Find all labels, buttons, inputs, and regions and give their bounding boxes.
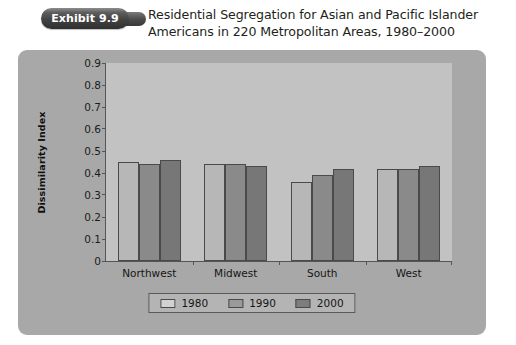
x-axis-category-label: West bbox=[396, 267, 422, 279]
legend-swatch-1980 bbox=[160, 299, 175, 308]
bar-group-south: South bbox=[279, 63, 366, 261]
bar-northwest-1990 bbox=[139, 164, 160, 261]
legend-label-1980: 1980 bbox=[181, 297, 208, 309]
bar-west-1990 bbox=[398, 169, 419, 261]
bar-west-1980 bbox=[377, 169, 398, 261]
y-axis-tick-label: 0 bbox=[94, 255, 101, 267]
legend-swatch-2000 bbox=[296, 299, 311, 308]
y-axis-tick-label: 0.8 bbox=[84, 79, 101, 91]
bar-south-2000 bbox=[333, 169, 354, 261]
y-axis-tick-label: 0.7 bbox=[84, 101, 101, 113]
x-axis-tick bbox=[193, 261, 194, 265]
x-axis-tick bbox=[366, 261, 367, 265]
bar-groups: NorthwestMidwestSouthWest bbox=[106, 63, 452, 261]
bar-midwest-1990 bbox=[225, 164, 246, 261]
exhibit-badge: Exhibit 9.9 bbox=[41, 8, 129, 29]
y-axis-tick-label: 0.9 bbox=[84, 57, 101, 69]
legend-swatch-1990 bbox=[228, 299, 243, 308]
y-axis-tick-label: 0.5 bbox=[84, 145, 101, 157]
chart-legend: 198019902000 bbox=[148, 293, 355, 313]
y-axis-tick-label: 0.6 bbox=[84, 123, 101, 135]
legend-item-2000[interactable]: 2000 bbox=[296, 297, 344, 309]
x-axis-tick bbox=[279, 261, 280, 265]
chart-panel: Dissimilarity Index 0.90.80.70.60.50.40.… bbox=[18, 50, 486, 335]
page-title: Residential Segregation for Asian and Pa… bbox=[148, 6, 498, 40]
page-title-line-2: Americans in 220 Metropolitan Areas, 198… bbox=[148, 23, 498, 40]
bar-midwest-1980 bbox=[204, 164, 225, 261]
legend-item-1980[interactable]: 1980 bbox=[160, 297, 208, 309]
y-axis-tick-label: 0.1 bbox=[84, 233, 101, 245]
x-axis-tick bbox=[451, 261, 452, 265]
x-axis-category-label: Midwest bbox=[214, 267, 257, 279]
y-axis-tick-label: 0.3 bbox=[84, 189, 101, 201]
y-axis-tick-label: 0.4 bbox=[84, 167, 101, 179]
plot-area: 0.90.80.70.60.50.40.30.20.10 NorthwestMi… bbox=[105, 63, 452, 262]
bar-group-midwest: Midwest bbox=[193, 63, 280, 261]
y-axis-title: Dissimilarity Index bbox=[34, 63, 48, 262]
bar-west-2000 bbox=[419, 166, 440, 261]
bar-south-1990 bbox=[312, 175, 333, 261]
legend-item-1990[interactable]: 1990 bbox=[228, 297, 276, 309]
bar-northwest-2000 bbox=[160, 160, 181, 261]
bar-south-1980 bbox=[291, 182, 312, 261]
bar-northwest-1980 bbox=[118, 162, 139, 261]
x-axis-category-label: South bbox=[307, 267, 338, 279]
bar-midwest-2000 bbox=[246, 166, 267, 261]
y-axis-title-label: Dissimilarity Index bbox=[36, 111, 47, 213]
legend-label-2000: 2000 bbox=[317, 297, 344, 309]
bar-group-west: West bbox=[366, 63, 453, 261]
y-axis-tick-label: 0.2 bbox=[84, 211, 101, 223]
legend-label-1990: 1990 bbox=[249, 297, 276, 309]
page-title-line-1: Residential Segregation for Asian and Pa… bbox=[148, 6, 498, 23]
bar-group-northwest: Northwest bbox=[106, 63, 193, 261]
x-axis-category-label: Northwest bbox=[122, 267, 176, 279]
